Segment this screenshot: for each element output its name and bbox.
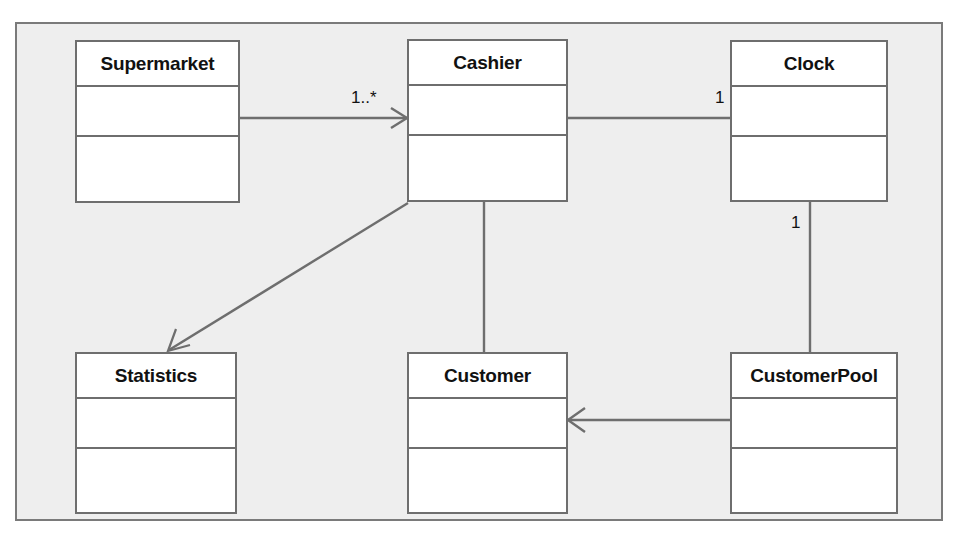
class-box-customerpool[interactable]: CustomerPool	[730, 352, 898, 514]
class-name-compartment: Cashier	[409, 41, 566, 86]
class-name-compartment: Clock	[732, 42, 886, 87]
class-box-statistics[interactable]: Statistics	[75, 352, 237, 514]
class-attributes-compartment	[409, 86, 566, 136]
class-attributes-compartment	[732, 87, 886, 137]
class-attributes-compartment	[409, 399, 566, 449]
multiplicity-supermarket-cashier: 1..*	[351, 88, 377, 108]
class-name-compartment: Supermarket	[77, 42, 238, 87]
diagram-canvas: Supermarket Cashier Clock Statistics Cus…	[0, 0, 960, 545]
multiplicity-clock-customerpool: 1	[791, 213, 800, 233]
class-box-supermarket[interactable]: Supermarket	[75, 40, 240, 203]
class-name-label: Statistics	[115, 365, 197, 387]
class-box-customer[interactable]: Customer	[407, 352, 568, 514]
class-name-label: Customer	[444, 365, 531, 387]
class-name-compartment: Customer	[409, 354, 566, 399]
class-name-label: CustomerPool	[750, 365, 877, 387]
class-name-label: Clock	[784, 53, 835, 75]
class-attributes-compartment	[77, 399, 235, 449]
class-attributes-compartment	[732, 399, 896, 449]
class-name-compartment: Statistics	[77, 354, 235, 399]
class-name-label: Cashier	[453, 52, 521, 74]
class-attributes-compartment	[77, 87, 238, 137]
class-name-compartment: CustomerPool	[732, 354, 896, 399]
class-box-cashier[interactable]: Cashier	[407, 39, 568, 202]
class-box-clock[interactable]: Clock	[730, 40, 888, 202]
class-name-label: Supermarket	[101, 53, 215, 75]
multiplicity-cashier-clock: 1	[715, 88, 724, 108]
